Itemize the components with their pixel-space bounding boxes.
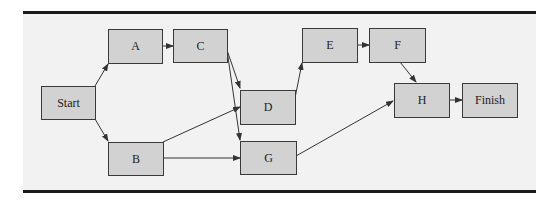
node-g: G [240, 141, 297, 175]
edge-start-a [95, 64, 108, 86]
node-e: E [302, 28, 358, 63]
node-h: H [394, 83, 450, 118]
node-start: Start [41, 86, 96, 120]
node-label: G [264, 151, 273, 166]
node-b: B [108, 142, 164, 176]
edge-start-b [95, 119, 108, 141]
node-c: C [173, 29, 228, 63]
edge-c-g [227, 50, 240, 140]
node-label: Start [57, 96, 80, 111]
edge-b-d [163, 107, 240, 142]
node-f: F [369, 28, 426, 63]
node-label: F [394, 38, 401, 53]
node-a: A [108, 29, 163, 64]
node-label: Finish [475, 93, 505, 108]
node-label: D [264, 100, 273, 115]
edge-c-d [227, 50, 240, 88]
edge-f-h [400, 62, 416, 82]
node-d: D [240, 90, 296, 125]
node-label: H [418, 93, 427, 108]
node-finish: Finish [462, 83, 518, 118]
node-label: E [326, 38, 333, 53]
edge-d-e [295, 63, 302, 98]
node-label: C [196, 39, 204, 54]
node-label: B [132, 152, 140, 167]
edge-g-h [296, 101, 393, 156]
node-label: A [131, 39, 140, 54]
